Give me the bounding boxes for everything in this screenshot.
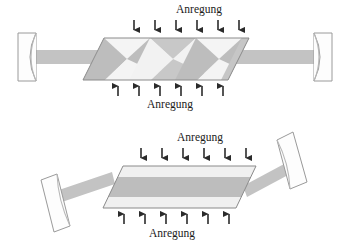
slab-laser-diagram: Anregung Anregung (0, 0, 350, 248)
mirror-right-concave (314, 33, 332, 81)
mirror-right-tilted (277, 132, 307, 189)
label-anregung-bottom-panel2: Anregung (149, 227, 195, 240)
beam-segment-right (232, 50, 322, 64)
straight-beam-band (95, 177, 265, 197)
beam-segment-left (30, 50, 100, 64)
pump-arrows-bottom (118, 86, 223, 96)
gain-slab-straight (95, 166, 265, 208)
label-anregung-top-panel2: Anregung (177, 131, 223, 144)
pump-arrows-top (134, 20, 239, 30)
panel-straight-slab-resonator: Anregung Anregung (41, 131, 307, 240)
diagram-canvas: Anregung Anregung (0, 0, 350, 248)
label-anregung-bottom-panel1: Anregung (147, 98, 193, 111)
beam-segment-left-tilted (56, 172, 115, 203)
mirror-left-concave (18, 33, 36, 81)
pump-arrows-bottom-panel2 (124, 214, 229, 224)
pump-arrows-top-panel2 (141, 148, 246, 158)
label-anregung-top-panel1: Anregung (176, 3, 222, 16)
mirror-left-tilted (41, 174, 70, 232)
panel-zigzag-slab-resonator: Anregung Anregung (18, 3, 332, 111)
